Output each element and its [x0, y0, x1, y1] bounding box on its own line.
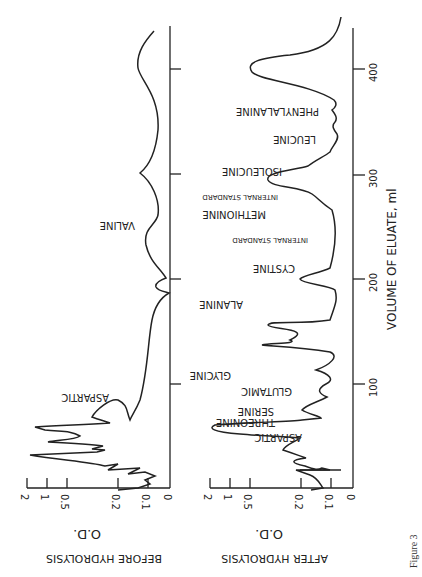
- after-od-tick-2: 2: [202, 494, 213, 500]
- vol-tick-300: 300: [368, 169, 379, 188]
- before-label-aspartic: ASPARTIC: [61, 392, 109, 403]
- vol-tick-100: 100: [368, 378, 379, 397]
- before-od-tick-0: 0: [162, 494, 173, 500]
- after-label-serine: SERINE: [238, 406, 274, 417]
- x-axis-label: VOLUME OF ELUATE, ml: [385, 188, 399, 330]
- after-title: AFTER HYDROLYSIS: [221, 552, 328, 565]
- before-od-label: O.D.: [73, 527, 101, 542]
- vol-tick-400: 400: [368, 63, 379, 82]
- before-od-tick-0.1: 0.1: [140, 494, 151, 510]
- after-label-glycine: GLYCINE: [190, 370, 231, 381]
- after-od-tick-0: 0: [345, 494, 356, 500]
- after-od-tick-1: 1: [222, 494, 233, 500]
- after-label-glutamic: GLUTAMIC: [241, 386, 292, 397]
- after-od-tick-0.1: 0.1: [323, 494, 334, 510]
- after-label-internal-standard-2: INTERNAL STANDARD: [202, 193, 278, 201]
- after-label-threonine: THREONINE: [216, 417, 276, 428]
- after-label-internal-standard-1: INTERNAL STANDARD: [232, 236, 308, 244]
- before-panel: ASPARTIC VALINE 2 1 0.5 0.2 0.1 0 O.D. B…: [19, 26, 181, 565]
- before-label-valine: VALINE: [100, 220, 135, 231]
- after-label-isoleucine: ISOLEUCINE: [222, 166, 282, 177]
- chromatogram-figure: ASPARTIC VALINE 2 1 0.5 0.2 0.1 0 O.D. B…: [0, 0, 422, 577]
- after-od-label: O.D.: [255, 527, 283, 542]
- before-title: BEFORE HYDROLYSIS: [46, 552, 162, 565]
- before-od-tick-0.2: 0.2: [110, 494, 121, 510]
- after-label-aspartic: ASPARTIC: [254, 432, 302, 443]
- after-label-phenylalanine: PHENYLALANINE: [236, 106, 319, 117]
- figure-caption: Figure 3: [408, 534, 419, 568]
- after-label-leucine: LEUCINE: [273, 134, 316, 145]
- after-od-tick-0.5: 0.5: [242, 494, 253, 510]
- after-label-cystine: CYSTINE: [253, 263, 295, 274]
- before-od-tick-2: 2: [19, 494, 30, 500]
- before-od-tick-0.5: 0.5: [59, 494, 70, 510]
- after-label-methionine: METHIONINE: [202, 209, 266, 220]
- vol-tick-200: 200: [368, 273, 379, 292]
- after-panel: ASPARTIC THREONINE SERINE GLUTAMIC GLYCI…: [190, 17, 399, 565]
- after-od-tick-0.2: 0.2: [293, 494, 304, 510]
- before-hydrolysis-curve: [30, 31, 169, 490]
- before-od-tick-1: 1: [39, 494, 50, 500]
- after-label-alanine: ALANINE: [199, 299, 243, 310]
